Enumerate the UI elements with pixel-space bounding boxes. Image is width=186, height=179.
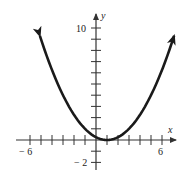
y-min-tick-label: − 2: [74, 157, 87, 168]
parabola-chart: x y − 6 6 10 − 2: [0, 0, 186, 179]
x-axis-label: x: [167, 124, 173, 135]
y-axis-label: y: [100, 10, 106, 21]
x-min-tick-label: − 6: [19, 146, 32, 157]
y-max-tick-label: 10: [76, 23, 86, 34]
parabola-curve: [40, 36, 174, 140]
x-max-tick-label: 6: [158, 146, 163, 157]
